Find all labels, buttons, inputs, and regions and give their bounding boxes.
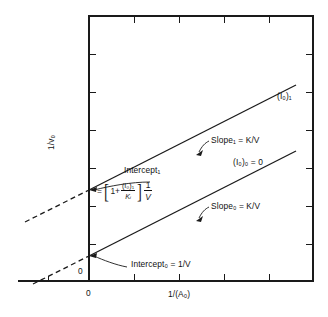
right-axis-ticks (306, 54, 313, 244)
y-axis-label-wrap: 1/v₀ (45, 128, 85, 148)
equation-fraction-numerator: (I₀)₁ (121, 181, 135, 190)
series-label-inhibited: (I₀)₁ (277, 92, 292, 101)
series-line-inhibited-dashed (25, 190, 89, 222)
bottom-axis-ticks (134, 274, 269, 281)
equation-equals-sign: = (97, 186, 102, 196)
leader-slope0 (199, 207, 209, 218)
top-axis-ticks (134, 16, 269, 23)
plot-canvas (0, 0, 328, 317)
equation-one-plus: 1+ (110, 186, 120, 196)
x-axis-extension (18, 276, 89, 281)
series-label-uninhibited: (I₀)₀ = 0 (233, 158, 263, 167)
x-axis-label: 1/(A₀) (168, 290, 190, 299)
intercept1-equation: = [ 1+ (I₀)₁ Kᵢ ] 1 V (97, 180, 153, 202)
intercept1-title: Intercept₁ (124, 166, 160, 175)
leader-slope1 (199, 141, 209, 152)
equation-fraction-denominator: Kᵢ (121, 190, 135, 200)
intercept0-label: Intercept₀ = 1/V (131, 260, 191, 269)
figure-container: 1/v₀ 1/(A₀) 0 0 (I₀)₁ Slope₁ = K/V (I₀)₀… (0, 0, 328, 317)
y-origin-tick-label: 0 (78, 267, 83, 276)
slope0-label: Slope₀ = K/V (211, 202, 260, 211)
slope1-label: Slope₁ = K/V (211, 136, 260, 145)
leader-intercept0 (94, 256, 127, 267)
x-origin-tick-label: 0 (86, 289, 91, 298)
equation-tail-denominator: V (144, 190, 152, 201)
equation-reciprocal-v: 1 V (144, 180, 152, 202)
equation-tail-numerator: 1 (145, 180, 152, 190)
left-axis-ticks (89, 54, 96, 244)
equation-inhibitor-fraction: (I₀)₁ Kᵢ (121, 181, 135, 201)
y-axis-label: 1/v₀ (47, 135, 56, 150)
